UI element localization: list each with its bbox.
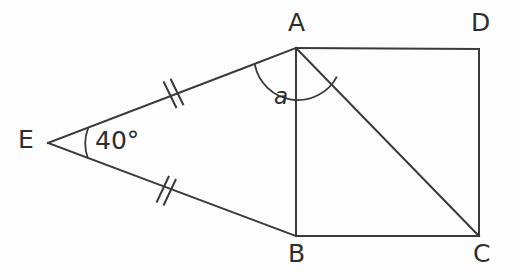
segment-EA bbox=[48, 48, 296, 143]
figure-canvas bbox=[0, 0, 520, 278]
geometry-figure: A D E B C 40° a bbox=[0, 0, 520, 278]
segment-AC-diagonal bbox=[296, 48, 479, 236]
vertex-label-E: E bbox=[18, 127, 34, 152]
vertex-label-C: C bbox=[473, 241, 490, 266]
segment-AD bbox=[296, 48, 479, 49]
angle-label-E: 40° bbox=[95, 128, 139, 153]
vertex-label-D: D bbox=[471, 10, 490, 35]
tick-marks-EA bbox=[164, 79, 184, 108]
angle-arc-E bbox=[85, 128, 88, 159]
vertex-label-A: A bbox=[288, 10, 305, 35]
angle-label-a: a bbox=[274, 85, 288, 108]
vertex-label-B: B bbox=[288, 241, 305, 266]
